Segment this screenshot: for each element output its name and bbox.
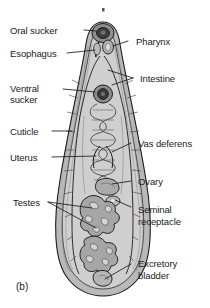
oral-sucker-organ [92, 24, 114, 43]
label-pharynx: Pharynx [136, 36, 170, 47]
ventral-sucker-organ [94, 85, 113, 103]
label-ovary: Ovary [138, 176, 163, 187]
figure-panel: Oral sucker Esophagus Ventral sucker Cut… [0, 0, 210, 308]
label-esophagus: Esophagus [10, 48, 57, 59]
label-seminal-receptacle-line2: receptacle [138, 216, 181, 227]
label-vas-deferens: Vas deferens [138, 138, 192, 149]
panel-identifier: (b) [16, 281, 28, 292]
ovary-organ [95, 178, 119, 195]
label-ventral-sucker-line1: Ventral [10, 83, 39, 94]
label-oral-sucker: Oral sucker [10, 25, 57, 36]
pharynx-organ [103, 40, 114, 54]
label-testes: Testes [13, 197, 40, 208]
label-ventral-sucker-line2: sucker [10, 94, 37, 105]
label-cuticle: Cuticle [10, 126, 38, 137]
label-excretory-bladder-line1: Excretory [138, 258, 177, 269]
ink-speck [102, 8, 105, 12]
excretory-bladder-organ [93, 270, 112, 286]
label-uterus: Uterus [10, 152, 37, 163]
label-excretory-bladder-line2: bladder [138, 270, 169, 281]
label-intestine: Intestine [140, 73, 175, 84]
label-seminal-receptacle-line1: Seminal [138, 204, 172, 215]
